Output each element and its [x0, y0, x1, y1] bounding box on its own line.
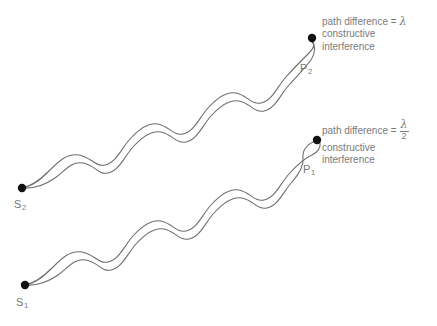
point-dot-p2	[308, 34, 316, 42]
point-label-p2-text: P	[300, 62, 308, 74]
source-label-s1: S1	[16, 296, 28, 308]
source-dot-s2	[18, 184, 26, 192]
annotation-p2-line2: constructive	[322, 28, 407, 40]
source-label-s2: S2	[14, 198, 26, 210]
source-label-s1-text: S	[16, 296, 24, 308]
point-label-p2: P2	[300, 62, 312, 74]
wave-ray-s1-b	[25, 141, 316, 285]
wave-ray-s2-b	[22, 42, 315, 188]
annotation-p1-line1: path difference = λ 2	[322, 120, 409, 142]
source-label-s2-sub: 2	[22, 203, 26, 212]
annotation-p1-line2: constructive	[322, 142, 409, 154]
source-dot-s1	[21, 281, 29, 289]
wave-ray-s2-a	[22, 41, 314, 188]
annotation-p1-line3: interference	[322, 154, 409, 166]
point-label-p1-text: P	[303, 163, 311, 175]
annotation-p2-line3: interference	[322, 41, 407, 53]
wave-ray-s1-a	[25, 143, 320, 285]
interference-diagram: S1 S2 P1 P2 path difference = λ construc…	[0, 0, 437, 326]
fraction-denominator: 2	[402, 132, 407, 142]
source-label-s2-text: S	[14, 198, 22, 210]
point-dot-p1	[313, 136, 321, 144]
point-label-p1: P1	[303, 163, 315, 175]
fraction-numerator: λ	[401, 119, 408, 131]
lambda-symbol: λ	[400, 16, 407, 28]
annotation-p2-line1: path difference = λ	[322, 16, 407, 28]
annotation-p1: path difference = λ 2 constructive inter…	[322, 120, 409, 167]
point-label-p1-sub: 1	[311, 168, 315, 177]
point-label-p2-sub: 2	[308, 67, 312, 76]
source-label-s1-sub: 1	[24, 301, 28, 310]
node-dots	[18, 34, 321, 289]
lambda-over-two-fraction: λ 2	[400, 119, 409, 141]
annotation-p2-lead: path difference =	[322, 16, 397, 28]
wave-rays	[22, 41, 320, 285]
annotation-p1-lead: path difference =	[322, 125, 397, 137]
annotation-p2: path difference = λ constructive interfe…	[322, 16, 407, 53]
